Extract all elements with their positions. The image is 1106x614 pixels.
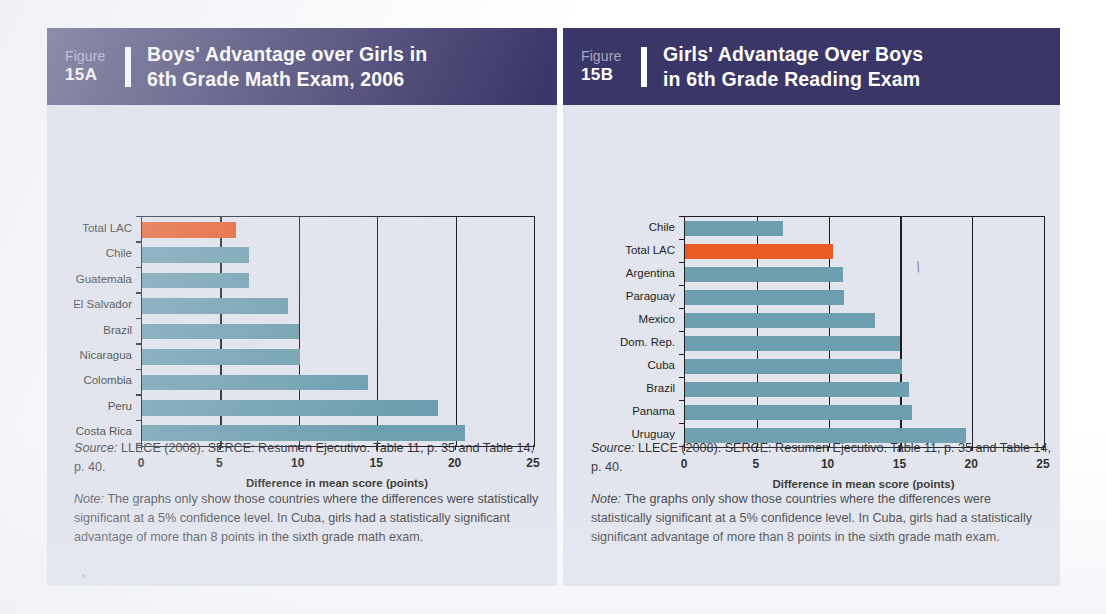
bar <box>685 313 875 327</box>
bar-row <box>685 267 1044 281</box>
bar <box>142 324 299 340</box>
y-axis-tick <box>679 262 684 263</box>
bar-row <box>685 244 1044 258</box>
category-label: Guatemala <box>46 273 132 285</box>
bar-row <box>142 222 534 238</box>
header-divider-rule <box>641 47 647 87</box>
bar <box>685 267 843 281</box>
bar <box>685 221 783 235</box>
plot-area <box>141 216 535 447</box>
scan-artifact-comma: ‚ <box>82 565 85 579</box>
note-text: The graphs only show those countries whe… <box>74 492 538 544</box>
header-divider-rule <box>125 47 131 87</box>
category-label: Panama <box>562 405 675 417</box>
bar-row <box>685 382 1044 396</box>
y-axis-tick <box>136 420 141 421</box>
note-text: LLECE (2008). SERCE: Resumen Ejecutivo. … <box>591 441 1051 474</box>
y-axis-tick <box>679 285 684 286</box>
panel-header: Figure15BGirls' Advantage Over Boysin 6t… <box>563 28 1060 105</box>
y-axis-tick <box>679 377 684 378</box>
panel-header: Figure15ABoys' Advantage over Girls in6t… <box>47 28 557 105</box>
bar-row <box>685 313 1044 327</box>
category-label: Brazil <box>46 324 132 336</box>
y-axis-tick <box>136 267 141 268</box>
y-axis-tick <box>136 292 141 293</box>
figure-title: Girls' Advantage Over Boysin 6th Grade R… <box>663 42 933 92</box>
bar <box>685 359 902 373</box>
bar-highlighted <box>142 222 236 238</box>
figure-notes: Source: LLECE (2008). SERCE: Resumen Eje… <box>74 426 542 547</box>
y-axis-tick <box>679 216 684 217</box>
y-axis-tick <box>136 369 141 370</box>
source-note: Source: LLECE (2008). SERCE: Resumen Eje… <box>74 439 542 477</box>
y-axis-tick <box>679 308 684 309</box>
note-text: The graphs only show those countries whe… <box>591 492 1032 544</box>
figure-id: 15B <box>581 65 639 84</box>
bar <box>685 290 844 304</box>
bar-row <box>685 336 1044 350</box>
note-label: Source: <box>74 441 117 455</box>
category-label: Mexico <box>562 313 675 325</box>
figure-title: Boys' Advantage over Girls in6th Grade M… <box>147 42 437 92</box>
note-label: Note: <box>74 492 104 506</box>
bar-row <box>142 298 534 314</box>
category-label: Chile <box>562 221 675 233</box>
note-label: Source: <box>591 441 634 455</box>
bar-row <box>142 324 534 340</box>
category-label: Cuba <box>562 359 675 371</box>
bar-row <box>685 221 1044 235</box>
bar <box>142 400 438 416</box>
category-label: Brazil <box>562 382 675 394</box>
y-axis-tick <box>679 331 684 332</box>
category-label: Peru <box>46 400 132 412</box>
category-label: Chile <box>46 247 132 259</box>
figure-word: Figure <box>581 49 639 65</box>
figure-notes: Source: LLECE (2008). SERCE: Resumen Eje… <box>591 426 1051 547</box>
figure-panel-15b: Figure15BGirls' Advantage Over Boysin 6t… <box>563 28 1060 586</box>
y-axis-tick <box>136 343 141 344</box>
figure-title-line-2: 6th Grade Math Exam, 2006 <box>147 67 427 92</box>
explanatory-note: Note: The graphs only show those countri… <box>74 490 542 547</box>
bar <box>685 382 909 396</box>
figure-panel-15a: Figure15ABoys' Advantage over Girls in6t… <box>47 28 557 586</box>
bar-row <box>142 349 534 365</box>
category-label: Argentina <box>562 267 675 279</box>
y-axis-tick <box>136 241 141 242</box>
category-label: Nicaragua <box>46 349 132 361</box>
figure-title-line-2: in 6th Grade Reading Exam <box>663 67 923 92</box>
bar <box>142 375 368 391</box>
scanned-page: Figure15ABoys' Advantage over Girls in6t… <box>0 0 1106 614</box>
explanatory-note: Note: The graphs only show those countri… <box>591 490 1051 547</box>
bar <box>142 298 288 314</box>
bar-row <box>685 359 1044 373</box>
y-axis-tick <box>136 216 141 217</box>
figure-title-line-1: Girls' Advantage Over Boys <box>663 42 923 67</box>
bar <box>142 247 249 263</box>
figure-word: Figure <box>65 49 123 65</box>
bar-highlighted <box>685 244 833 258</box>
category-label: Dom. Rep. <box>562 336 675 348</box>
plot-area <box>684 216 1045 448</box>
source-note: Source: LLECE (2008). SERCE: Resumen Eje… <box>591 439 1051 477</box>
note-text: LLECE (2008). SERCE: Resumen Ejecutivo. … <box>74 441 534 474</box>
figure-number-block: Figure15B <box>563 49 639 84</box>
bar-row <box>142 400 534 416</box>
bar <box>142 273 249 289</box>
bar <box>142 349 300 365</box>
bar-row <box>142 273 534 289</box>
y-axis-tick <box>679 400 684 401</box>
figure-number-block: Figure15A <box>47 49 123 84</box>
bar-row <box>142 247 534 263</box>
bar-series <box>142 217 534 446</box>
category-label: Colombia <box>46 374 132 386</box>
y-axis-tick <box>679 354 684 355</box>
bar <box>685 405 912 419</box>
bar-series <box>685 217 1044 447</box>
figure-id: 15A <box>65 65 123 84</box>
category-label: Total LAC <box>46 222 132 234</box>
y-axis-tick <box>679 423 684 424</box>
y-axis-tick <box>136 394 141 395</box>
category-label: Total LAC <box>562 244 675 256</box>
category-label: El Salvador <box>46 298 132 310</box>
y-axis-tick <box>679 239 684 240</box>
